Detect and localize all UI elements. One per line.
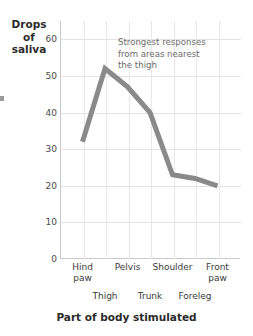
x-tick-label-line: paw — [72, 273, 93, 284]
x-tick-label: Thigh — [92, 291, 117, 302]
y-tick-label: 50 — [33, 71, 57, 81]
chart-figure: Drops of saliva 0102030405060 Strongest … — [0, 0, 253, 336]
x-tick-label-line: Foreleg — [178, 291, 211, 302]
x-tick-label-line: Hind — [72, 262, 93, 273]
x-tick-label-line: paw — [206, 273, 229, 284]
y-tick-label: 60 — [33, 34, 57, 44]
x-tick-label: Pelvis — [115, 262, 141, 273]
chart-annotation-line-2: from areas nearest — [118, 49, 222, 61]
chart-annotation: Strongest responses from areas nearest t… — [118, 37, 222, 72]
y-tick-label: 0 — [33, 254, 57, 264]
y-tick-label: 10 — [33, 217, 57, 227]
x-tick-label: Hindpaw — [72, 262, 93, 283]
chart-annotation-line-3: the thigh — [118, 60, 222, 72]
x-tick-label-line: Trunk — [138, 291, 163, 302]
y-tick-label: 30 — [33, 144, 57, 154]
y-tick-label: 40 — [33, 108, 57, 118]
x-tick-label-line: Shoulder — [152, 262, 192, 273]
data-series-line — [83, 69, 218, 186]
x-tick-label: Foreleg — [178, 291, 211, 302]
x-tick-label: Frontpaw — [206, 262, 229, 283]
x-tick-label-line: Pelvis — [115, 262, 141, 273]
x-tick-label: Shoulder — [152, 262, 192, 273]
x-tick-label-line: Thigh — [92, 291, 117, 302]
left-edge-marker — [0, 96, 4, 101]
chart-annotation-line-1: Strongest responses — [118, 37, 222, 49]
x-axis-title: Part of body stimulated — [0, 311, 253, 323]
x-tick-label-line: Front — [206, 262, 229, 273]
y-tick-label: 20 — [33, 181, 57, 191]
x-tick-label: Trunk — [138, 291, 163, 302]
y-axis-ticks: 0102030405060 — [30, 21, 57, 259]
